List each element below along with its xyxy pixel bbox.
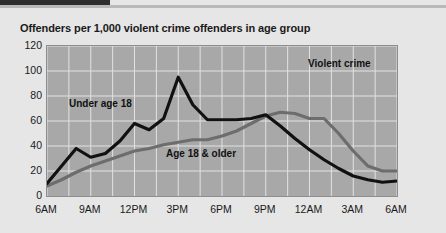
series-label-age-18-and-older: Age 18 & older bbox=[166, 148, 236, 159]
x-axis-tick: 3AM bbox=[341, 203, 363, 215]
annotation-violent-crime: Violent crime bbox=[308, 58, 371, 69]
x-axis-tick: 9PM bbox=[254, 203, 276, 215]
y-axis-tick: 80 bbox=[2, 90, 42, 100]
x-axis-tick: 6AM bbox=[385, 203, 407, 215]
y-axis-tick: 40 bbox=[2, 140, 42, 150]
y-axis-tick: 20 bbox=[2, 165, 42, 175]
x-axis-tick: 3PM bbox=[166, 203, 188, 215]
y-axis-tick: 100 bbox=[2, 65, 42, 75]
x-axis-tick: 6AM bbox=[35, 203, 57, 215]
x-axis-tick: 6PM bbox=[210, 203, 232, 215]
y-axis-labels: 020406080100120 bbox=[0, 45, 42, 197]
x-axis-labels: 6AM9AM12PM3PM6PM9PM12AM3AM6AM bbox=[46, 203, 398, 217]
series-label-under-age-18: Under age 18 bbox=[69, 98, 132, 109]
y-axis-tick: 0 bbox=[2, 190, 42, 200]
x-axis-tick: 9AM bbox=[79, 203, 101, 215]
y-axis-tick: 60 bbox=[2, 115, 42, 125]
y-axis-tick: 120 bbox=[2, 40, 42, 50]
chart-page: Offenders per 1,000 violent crime offend… bbox=[0, 0, 446, 233]
x-axis-tick: 12AM bbox=[295, 203, 322, 215]
line-chart: 020406080100120 Under age 18 Age 18 & ol… bbox=[0, 0, 446, 233]
x-axis-tick: 12PM bbox=[120, 203, 147, 215]
